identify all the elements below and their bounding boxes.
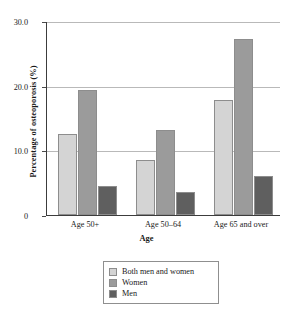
bar[interactable] xyxy=(156,130,175,215)
legend-swatch-icon xyxy=(109,290,117,298)
legend-label: Both men and women xyxy=(122,266,194,277)
x-tick-label: Age 50+ xyxy=(46,220,124,229)
bar[interactable] xyxy=(234,39,253,215)
y-tick-label: 10.0 xyxy=(0,147,28,156)
bar[interactable] xyxy=(176,192,195,215)
x-axis-title: Age xyxy=(0,234,293,243)
legend-item[interactable]: Women xyxy=(109,277,213,288)
y-axis-title: Percentage of osteoporosis (%) xyxy=(29,27,38,217)
chart-figure: Percentage of osteoporosis (%) 010.020.0… xyxy=(0,0,293,319)
y-axis-line xyxy=(46,22,47,216)
legend-swatch-icon xyxy=(109,279,117,287)
legend-item[interactable]: Both men and women xyxy=(109,266,213,277)
legend-label: Men xyxy=(122,288,137,299)
x-tick-label: Age 50–64 xyxy=(124,220,202,229)
bar[interactable] xyxy=(214,100,233,215)
bar-group xyxy=(214,22,273,215)
y-tick-label: 30.0 xyxy=(0,18,28,27)
bar[interactable] xyxy=(136,160,155,215)
chart-legend: Both men and womenWomenMen xyxy=(103,261,219,304)
legend-swatch-icon xyxy=(109,268,117,276)
legend-item[interactable]: Men xyxy=(109,288,213,299)
bar[interactable] xyxy=(58,134,77,215)
bar[interactable] xyxy=(78,90,97,215)
y-tick-label: 20.0 xyxy=(0,82,28,91)
legend-label: Women xyxy=(122,277,147,288)
bar-group xyxy=(136,22,195,215)
x-tick-label: Age 65 and over xyxy=(202,220,280,229)
bar-group xyxy=(58,22,117,215)
plot-area: 010.020.030.0 xyxy=(46,22,280,216)
bar[interactable] xyxy=(254,176,273,215)
y-tick-label: 0 xyxy=(0,212,28,221)
y-tick-mark xyxy=(42,216,46,217)
bar[interactable] xyxy=(98,186,117,215)
